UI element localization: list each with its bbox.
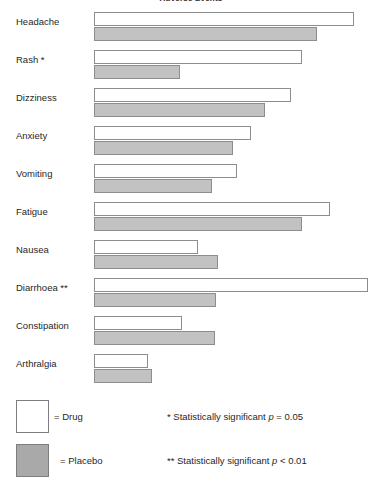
note-one-text: * Statistically significant — [167, 411, 268, 422]
bar-placebo — [94, 103, 265, 117]
bar-drug — [94, 50, 302, 64]
legend-note-single-asterisk: * Statistically significant p = 0.05 — [167, 411, 303, 423]
bar-placebo — [94, 27, 317, 41]
row-label: Arthralgia — [0, 358, 86, 370]
bar-drug — [94, 278, 368, 292]
row-label: Vomiting — [0, 168, 86, 180]
legend-row-placebo: = Placebo ** Statistically significant p… — [0, 442, 382, 482]
chart-row: Vomiting — [0, 162, 382, 200]
legend-label-drug: = Drug — [54, 411, 83, 423]
note-one-tail: = 0.05 — [274, 411, 303, 422]
bar-drug — [94, 354, 148, 368]
row-label: Anxiety — [0, 130, 86, 142]
row-label: Constipation — [0, 320, 86, 332]
chart-row: Headache — [0, 10, 382, 48]
bar-placebo — [94, 141, 233, 155]
bar-placebo — [94, 369, 152, 383]
adverse-events-chart: Adverse Events HeadacheRash *DizzinessAn… — [0, 0, 382, 486]
chart-row: Anxiety — [0, 124, 382, 162]
chart-row: Rash * — [0, 48, 382, 86]
note-two-text: ** Statistically significant — [167, 455, 272, 466]
legend-swatch-drug — [16, 400, 49, 433]
bar-drug — [94, 202, 330, 216]
bar-placebo — [94, 255, 218, 269]
legend-swatch-placebo — [16, 444, 49, 477]
bar-placebo — [94, 179, 212, 193]
plot-area: HeadacheRash *DizzinessAnxietyVomitingFa… — [0, 10, 382, 392]
chart-row: Nausea — [0, 238, 382, 276]
row-label: Dizziness — [0, 92, 86, 104]
legend-note-double-asterisk: ** Statistically significant p < 0.01 — [167, 455, 307, 467]
legend-label-placebo: = Placebo — [60, 455, 103, 467]
row-label: Diarrhoea ** — [0, 282, 86, 294]
chart-row: Arthralgia — [0, 352, 382, 390]
legend-row-drug: = Drug * Statistically significant p = 0… — [0, 398, 382, 438]
row-label: Rash * — [0, 54, 86, 66]
bar-drug — [94, 316, 182, 330]
note-two-tail: < 0.01 — [277, 455, 306, 466]
row-label: Headache — [0, 16, 86, 28]
row-label: Fatigue — [0, 206, 86, 218]
bar-drug — [94, 164, 237, 178]
bar-placebo — [94, 65, 180, 79]
bar-placebo — [94, 293, 216, 307]
chart-row: Diarrhoea ** — [0, 276, 382, 314]
bar-drug — [94, 12, 354, 26]
row-label: Nausea — [0, 244, 86, 256]
chart-row: Constipation — [0, 314, 382, 352]
chart-row: Dizziness — [0, 86, 382, 124]
bar-drug — [94, 88, 291, 102]
chart-title: Adverse Events — [0, 0, 382, 1]
bar-placebo — [94, 331, 215, 345]
chart-row: Fatigue — [0, 200, 382, 238]
bar-drug — [94, 126, 251, 140]
bar-drug — [94, 240, 198, 254]
bar-placebo — [94, 217, 302, 231]
chart-legend: = Drug * Statistically significant p = 0… — [0, 398, 382, 486]
